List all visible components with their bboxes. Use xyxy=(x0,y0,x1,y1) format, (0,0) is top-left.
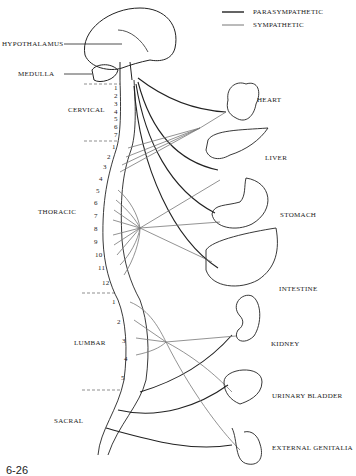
region-lumbar-label: LUMBAR xyxy=(74,339,106,347)
vertebra-t2: 2 xyxy=(107,153,111,161)
medulla-label: MEDULLA xyxy=(18,70,54,78)
vertebra-t8: 8 xyxy=(94,225,98,233)
intestine-icon xyxy=(206,228,277,286)
legend-parasympathetic-label: PARASYMPATHETIC xyxy=(253,8,323,16)
vertebra-c2: 2 xyxy=(114,92,118,100)
vertebra-l1: 1 xyxy=(112,298,116,306)
vertebra-c1: 1 xyxy=(114,84,118,92)
vertebra-t3: 3 xyxy=(103,163,107,171)
organ-intestine-label: INTESTINE xyxy=(279,285,317,293)
organ-heart-label: HEART xyxy=(257,96,281,104)
vertebra-c5: 5 xyxy=(114,115,118,123)
vertebra-c7: 7 xyxy=(114,131,118,139)
vertebra-c6: 6 xyxy=(114,123,118,131)
spinal-column xyxy=(98,80,148,455)
urinary-bladder-icon xyxy=(224,370,262,404)
vertebra-t12: 12 xyxy=(102,279,110,287)
liver-icon xyxy=(206,128,268,159)
heart-icon xyxy=(227,83,258,120)
figure-number: 6-26 xyxy=(6,464,28,476)
vertebra-t9: 9 xyxy=(94,238,98,246)
vertebra-l3: 3 xyxy=(122,337,126,345)
region-thoracic-label: THORACIC xyxy=(38,208,76,216)
stomach-icon xyxy=(212,178,268,228)
vertebra-t11: 11 xyxy=(98,264,105,272)
organ-liver-label: LIVER xyxy=(265,154,287,162)
kidney-icon xyxy=(236,295,260,341)
vertebra-t7: 7 xyxy=(94,212,98,220)
external-genitalia-icon xyxy=(232,428,262,464)
vertebra-l2: 2 xyxy=(117,318,121,326)
vertebra-l5: 5 xyxy=(121,374,125,382)
organ-kidney-label: KIDNEY xyxy=(271,340,300,348)
organ-external-genitalia-label: EXTERNAL GENITALIA xyxy=(272,444,353,452)
vertebra-c3: 3 xyxy=(114,100,118,108)
organ-urinary-bladder-label: URINARY BLADDER xyxy=(272,392,343,400)
region-sacral-label: SACRAL xyxy=(54,417,83,425)
brain-icon xyxy=(84,8,176,82)
hypothalamus-label: HYPOTHALAMUS xyxy=(2,40,64,48)
organ-stomach-label: STOMACH xyxy=(280,211,316,219)
region-cervical-label: CERVICAL xyxy=(68,106,105,114)
vertebra-t1: 1 xyxy=(112,143,116,151)
vertebra-t5: 5 xyxy=(96,187,100,195)
vertebra-t10: 10 xyxy=(95,251,103,259)
vertebra-l4: 4 xyxy=(124,355,128,363)
vertebra-t6: 6 xyxy=(94,199,98,207)
vertebra-t4: 4 xyxy=(99,175,103,183)
legend-sympathetic-label: SYMPATHETIC xyxy=(253,21,304,29)
